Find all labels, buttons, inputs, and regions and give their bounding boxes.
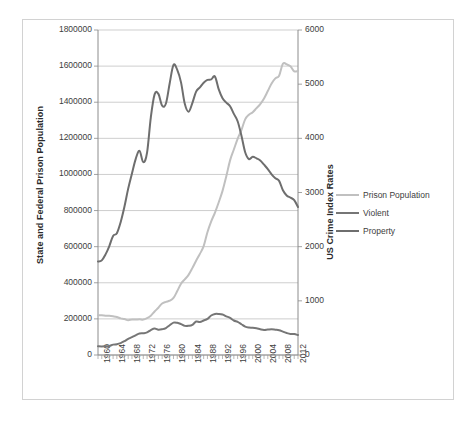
- legend-swatch-icon: [336, 230, 359, 232]
- chart-figure: State and Federal Prison Population US C…: [0, 0, 473, 425]
- series-line-property: [98, 64, 298, 261]
- data-series-layer: [98, 63, 298, 347]
- legend-item[interactable]: Violent: [336, 204, 454, 222]
- legend-item-label: Property: [363, 226, 395, 236]
- legend-item[interactable]: Property: [336, 222, 454, 240]
- legend-swatch-icon: [336, 194, 359, 196]
- legend-item-label: Prison Population: [363, 190, 430, 200]
- chart-legend: Prison PopulationViolentProperty: [336, 186, 454, 240]
- legend-item[interactable]: Prison Population: [336, 186, 454, 204]
- legend-swatch-icon: [336, 212, 359, 214]
- legend-item-label: Violent: [363, 208, 389, 218]
- axis-lines: [94, 30, 302, 359]
